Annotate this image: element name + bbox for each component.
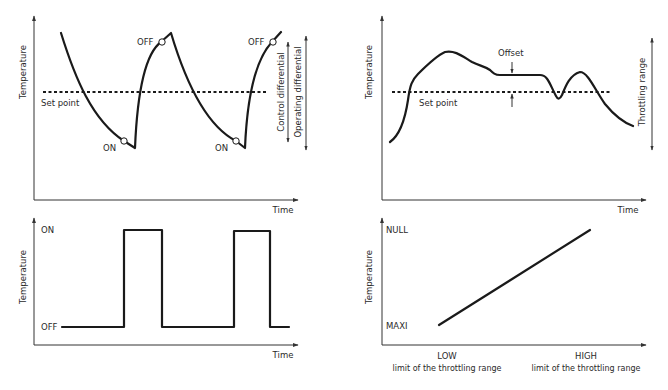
output-line <box>439 230 590 325</box>
low-label: LOW <box>437 351 457 361</box>
throttling-range-label: Throttling range <box>637 58 647 128</box>
y-axis-label: Temperature <box>18 45 28 100</box>
on-marker-2 <box>233 138 239 144</box>
off-label: OFF <box>41 322 58 332</box>
panel-proportional-output: Temperature NULL MAXI LOW limit of the t… <box>364 218 646 373</box>
panel-on-off-output: Temperature Time ON OFF <box>18 218 298 360</box>
off-label-1: OFF <box>137 37 154 47</box>
offset-label: Offset <box>498 48 524 58</box>
y-axis-label: Temperature <box>364 250 374 305</box>
control-diagrams: Temperature Time Set point ON OFF ON OFF… <box>0 0 668 390</box>
panel-proportional-control: Temperature Time Set point Offset Thrott… <box>364 16 652 215</box>
on-marker-1 <box>121 138 127 144</box>
off-marker-2 <box>270 39 276 45</box>
null-label: NULL <box>386 225 408 235</box>
y-axis-label: Temperature <box>364 45 374 100</box>
setpoint-label: Set point <box>419 98 458 108</box>
maxi-label: MAXI <box>386 321 407 331</box>
x-axis-label: Time <box>272 350 294 360</box>
off-label-2: OFF <box>248 37 265 47</box>
x-axis-label: Time <box>617 205 639 215</box>
panel-on-off-control: Temperature Time Set point ON OFF ON OFF… <box>18 16 306 215</box>
high-sublabel: limit of the throttling range <box>532 364 641 373</box>
y-axis-label: Temperature <box>18 250 28 305</box>
operating-differential-label: Operating differential <box>293 46 303 137</box>
low-sublabel: limit of the throttling range <box>393 364 502 373</box>
control-differential-label: Control differential <box>276 52 286 131</box>
output-square-wave <box>62 230 289 327</box>
on-label-2: ON <box>215 143 228 153</box>
off-marker-1 <box>159 39 165 45</box>
high-label: HIGH <box>575 351 597 361</box>
x-axis-label: Time <box>272 205 294 215</box>
temperature-curve <box>61 32 281 148</box>
setpoint-label: Set point <box>41 98 80 108</box>
on-label: ON <box>41 225 54 235</box>
on-label-1: ON <box>103 143 116 153</box>
